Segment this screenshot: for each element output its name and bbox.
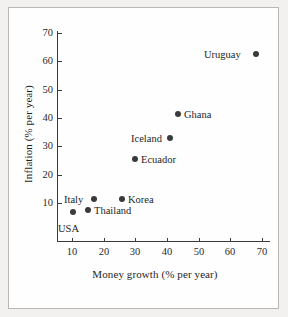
data-point-iceland[interactable] <box>167 135 173 141</box>
data-point-ecuador[interactable] <box>132 156 138 162</box>
x-tick-label-50: 50 <box>187 246 211 257</box>
data-point-ghana[interactable] <box>175 111 181 117</box>
data-label-uruguay: Uruguay <box>204 49 241 60</box>
y-axis-line <box>57 31 58 242</box>
data-point-italy[interactable] <box>91 196 97 202</box>
y-tick-label-60: 60 <box>31 55 53 66</box>
y-tick-label-10: 10 <box>31 197 53 208</box>
y-tick-30 <box>58 146 62 147</box>
plot-area: 70 60 50 40 30 20 10 10 20 30 40 50 60 7… <box>0 0 288 317</box>
x-tick-label-40: 40 <box>155 246 179 257</box>
y-tick-label-30: 30 <box>31 140 53 151</box>
data-label-thailand: Thailand <box>94 205 131 216</box>
y-tick-label-50: 50 <box>31 84 53 95</box>
x-axis-title: Money growth (% per year) <box>40 268 270 280</box>
data-label-ghana: Ghana <box>184 109 211 120</box>
x-tick-60 <box>230 238 231 242</box>
y-tick-label-20: 20 <box>31 169 53 180</box>
y-tick-50 <box>58 90 62 91</box>
y-tick-70 <box>58 33 62 34</box>
x-tick-label-10: 10 <box>60 246 84 257</box>
y-tick-60 <box>58 61 62 62</box>
x-tick-30 <box>135 238 136 242</box>
x-tick-label-70: 70 <box>250 246 274 257</box>
y-axis-title: Inflation (% per year) <box>22 44 34 224</box>
data-label-italy: Italy <box>64 194 83 205</box>
data-point-uruguay[interactable] <box>253 51 259 57</box>
x-tick-40 <box>167 238 168 242</box>
y-tick-20 <box>58 175 62 176</box>
x-axis-line <box>57 241 270 242</box>
x-tick-10 <box>72 238 73 242</box>
data-point-thailand[interactable] <box>85 207 91 213</box>
x-tick-label-60: 60 <box>218 246 242 257</box>
y-tick-10 <box>58 203 62 204</box>
data-label-iceland: Iceland <box>131 133 162 144</box>
scatter-plot-figure: 70 60 50 40 30 20 10 10 20 30 40 50 60 7… <box>0 0 288 317</box>
x-tick-label-30: 30 <box>123 246 147 257</box>
y-tick-40 <box>58 118 62 119</box>
data-point-usa[interactable] <box>70 209 76 215</box>
data-point-korea[interactable] <box>119 196 125 202</box>
x-tick-70 <box>262 238 263 242</box>
x-tick-50 <box>199 238 200 242</box>
data-label-ecuador: Ecuador <box>141 154 176 165</box>
y-tick-label-40: 40 <box>31 112 53 123</box>
data-label-korea: Korea <box>128 194 154 205</box>
y-tick-label-70: 70 <box>31 27 53 38</box>
x-tick-label-20: 20 <box>92 246 116 257</box>
x-tick-20 <box>104 238 105 242</box>
data-label-usa: USA <box>58 223 79 234</box>
